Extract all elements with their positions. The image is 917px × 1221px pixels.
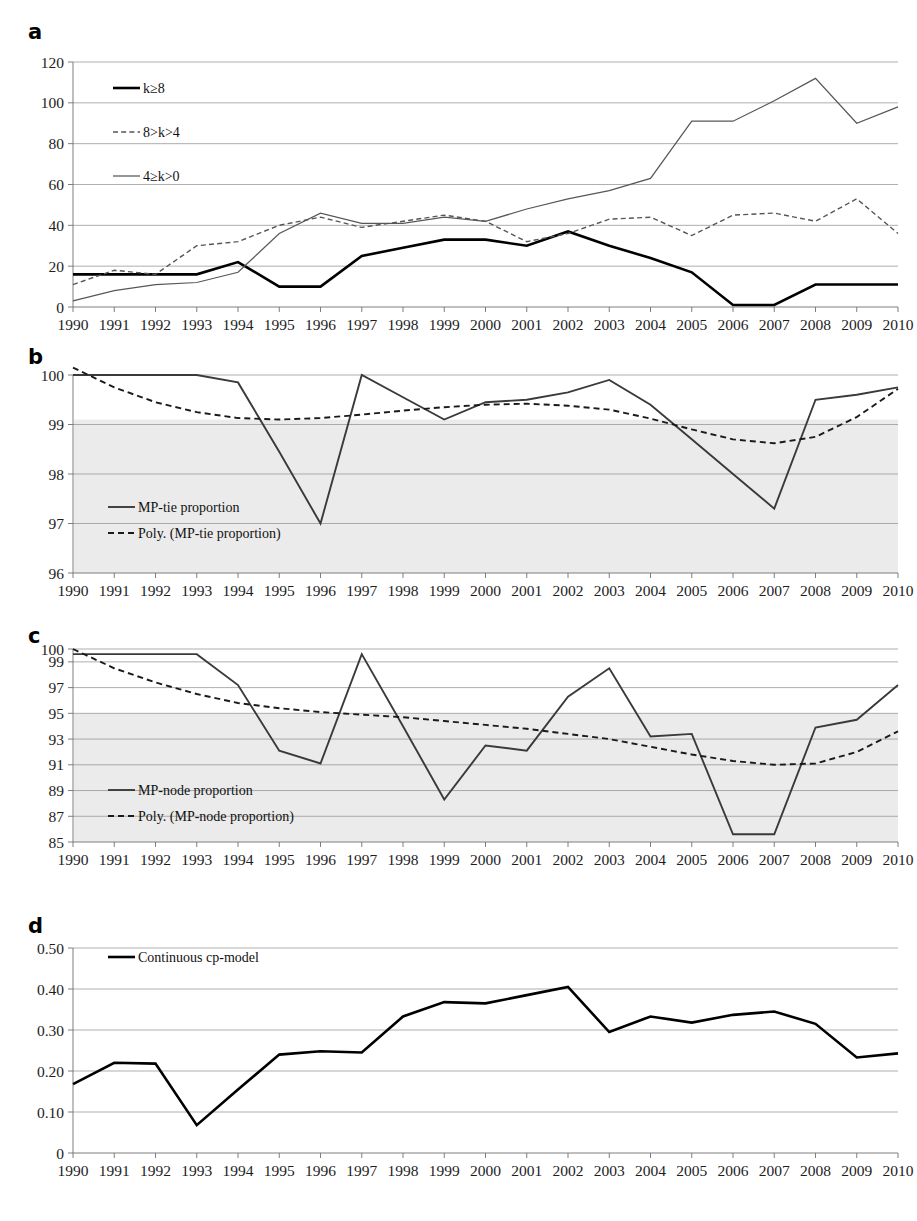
panel-d: d 00.100.200.300.400.5019901991199219931… [0, 900, 917, 1221]
x-tick-label: 1998 [388, 1162, 419, 1179]
x-tick-label: 2008 [800, 1162, 831, 1179]
x-tick-label: 1995 [264, 316, 295, 333]
panel-c-chart: 8587899193959799100199019911992199319941… [0, 620, 917, 900]
y-tick-label: 0.10 [37, 1104, 64, 1121]
x-tick-label: 2000 [470, 582, 501, 599]
x-tick-label: 2006 [718, 582, 749, 599]
x-tick-label: 1997 [346, 582, 377, 599]
x-tick-label: 1991 [99, 1162, 130, 1179]
x-tick-label: 1998 [388, 851, 419, 868]
y-tick-label: 99 [49, 416, 65, 433]
x-tick-label: 1995 [264, 851, 295, 868]
x-tick-label: 2000 [470, 1162, 501, 1179]
y-tick-label: 80 [49, 135, 65, 152]
x-tick-label: 1990 [58, 851, 89, 868]
x-tick-label: 1999 [429, 851, 460, 868]
x-tick-label: 2006 [718, 851, 749, 868]
x-tick-label: 2007 [759, 316, 790, 333]
figure-page: a 02040608010012019901991199219931994199… [0, 0, 917, 1221]
x-tick-label: 2000 [470, 316, 501, 333]
panel-a: a 02040608010012019901991199219931994199… [0, 0, 917, 335]
legend-label: k≥8 [143, 81, 165, 96]
y-tick-label: 100 [41, 367, 65, 384]
y-tick-label: 20 [49, 258, 65, 275]
x-tick-label: 2010 [883, 582, 914, 599]
x-tick-label: 2005 [676, 582, 707, 599]
panel-d-letter: d [28, 914, 43, 938]
x-tick-label: 2008 [800, 851, 831, 868]
x-tick-label: 2009 [841, 582, 872, 599]
y-tick-label: 0.40 [37, 981, 64, 998]
x-tick-label: 1996 [305, 582, 336, 599]
x-tick-label: 1992 [140, 316, 171, 333]
x-tick-label: 2000 [470, 851, 501, 868]
y-tick-label: 97 [49, 515, 65, 532]
y-tick-label: 95 [49, 705, 65, 722]
x-tick-label: 2006 [718, 316, 749, 333]
y-tick-label: 60 [49, 176, 65, 193]
panel-a-chart: 0204060801001201990199119921993199419951… [0, 0, 917, 335]
x-tick-label: 1990 [58, 582, 89, 599]
x-tick-label: 2003 [594, 316, 625, 333]
x-tick-label: 1999 [429, 582, 460, 599]
x-tick-label: 2002 [553, 851, 584, 868]
y-tick-label: 0 [56, 1145, 64, 1162]
x-tick-label: 1997 [346, 851, 377, 868]
x-tick-label: 2006 [718, 1162, 749, 1179]
y-tick-label: 40 [49, 217, 65, 234]
x-tick-label: 1996 [305, 851, 336, 868]
x-tick-label: 2009 [841, 1162, 872, 1179]
panel-b-chart: 9697989910019901991199219931994199519961… [0, 335, 917, 620]
y-tick-label: 93 [49, 731, 65, 748]
legend-label: Poly. (MP-node proportion) [138, 809, 294, 825]
y-tick-label: 91 [49, 756, 65, 773]
y-tick-label: 98 [49, 466, 65, 483]
x-tick-label: 1990 [58, 316, 89, 333]
y-tick-label: 87 [49, 808, 65, 825]
x-tick-label: 1993 [181, 1162, 212, 1179]
x-tick-label: 1996 [305, 1162, 336, 1179]
x-tick-label: 2004 [635, 1162, 666, 1179]
y-tick-label: 100 [41, 94, 65, 111]
x-tick-label: 1991 [99, 316, 130, 333]
y-tick-label: 85 [49, 834, 65, 851]
x-tick-label: 2008 [800, 316, 831, 333]
y-tick-label: 0 [56, 299, 64, 316]
series-line [73, 231, 898, 304]
x-tick-label: 2009 [841, 851, 872, 868]
x-tick-label: 1998 [388, 316, 419, 333]
x-tick-label: 1996 [305, 316, 336, 333]
y-tick-label: 0.20 [37, 1063, 64, 1080]
x-tick-label: 2007 [759, 582, 790, 599]
x-tick-label: 2009 [841, 316, 872, 333]
legend-label: Continuous cp-model [138, 950, 259, 965]
y-tick-label: 89 [49, 782, 65, 799]
x-tick-label: 1998 [388, 582, 419, 599]
x-tick-label: 2003 [594, 1162, 625, 1179]
x-tick-label: 2004 [635, 316, 666, 333]
panel-c-letter: c [28, 624, 40, 648]
y-tick-label: 96 [49, 565, 65, 582]
series-line [73, 78, 898, 301]
x-tick-label: 2005 [676, 851, 707, 868]
x-tick-label: 1995 [264, 1162, 295, 1179]
x-tick-label: 1991 [99, 851, 130, 868]
x-tick-label: 2007 [759, 1162, 790, 1179]
legend-label: MP-node proportion [138, 783, 253, 798]
x-tick-label: 1990 [58, 1162, 89, 1179]
x-tick-label: 2002 [553, 582, 584, 599]
x-tick-label: 2001 [511, 582, 542, 599]
x-tick-label: 1994 [223, 1162, 254, 1179]
x-tick-label: 2002 [553, 1162, 584, 1179]
x-tick-label: 1994 [223, 316, 254, 333]
x-tick-label: 1992 [140, 1162, 171, 1179]
x-tick-label: 2003 [594, 582, 625, 599]
x-tick-label: 1991 [99, 582, 130, 599]
panel-b: b 96979899100199019911992199319941995199… [0, 335, 917, 620]
x-tick-label: 2010 [883, 316, 914, 333]
x-tick-label: 2001 [511, 316, 542, 333]
x-tick-label: 2008 [800, 582, 831, 599]
x-tick-label: 2003 [594, 851, 625, 868]
y-tick-label: 97 [49, 679, 65, 696]
series-line [73, 987, 898, 1125]
